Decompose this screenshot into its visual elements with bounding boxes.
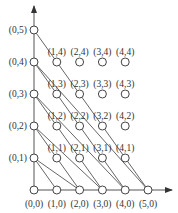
node-label: (0,0) (25, 199, 43, 210)
node-label: (3,0) (93, 199, 111, 210)
node-label: (0,5) (9, 25, 27, 36)
node-circle (144, 186, 152, 194)
node-circle (98, 90, 106, 98)
node-label: (0,3) (9, 89, 27, 100)
node-circle (53, 122, 61, 130)
node-label: (2,1) (70, 143, 88, 154)
node-circle (76, 186, 84, 194)
edge (34, 94, 102, 190)
node-circle (98, 122, 106, 130)
node-label: (3,4) (93, 47, 111, 58)
edge (34, 126, 102, 190)
node-circle (98, 58, 106, 66)
node-circle (30, 186, 38, 194)
node-label: (4,0) (116, 199, 134, 210)
node-label: (1,0) (48, 199, 66, 210)
node-label: (4,1) (116, 143, 134, 154)
edge (34, 158, 57, 190)
node-labels: (0,0)(1,0)(2,0)(3,0)(4,0)(5,0)(0,1)(1,1)… (9, 25, 157, 210)
node-label: (5,0) (139, 199, 157, 210)
node-label: (2,2) (70, 111, 88, 122)
node-circle (30, 90, 38, 98)
node-label: (1,1) (48, 143, 66, 154)
node-circle (30, 122, 38, 130)
node-label: (2,3) (70, 79, 88, 90)
node-label: (4,2) (116, 111, 134, 122)
node-circle (30, 58, 38, 66)
node-circle (121, 122, 129, 130)
node-label: (2,0) (70, 199, 88, 210)
node-circle (121, 90, 129, 98)
node-circle (121, 186, 129, 194)
node-label: (4,4) (116, 47, 134, 58)
node-label: (2,4) (70, 47, 88, 58)
node-label: (0,2) (9, 121, 27, 132)
node-circle (76, 122, 84, 130)
node-label: (3,1) (93, 143, 111, 154)
node-circle (76, 90, 84, 98)
node-circle (121, 154, 129, 162)
node-circle (30, 154, 38, 162)
node-circle (98, 154, 106, 162)
node-circle (121, 58, 129, 66)
node-circle (30, 26, 38, 34)
node-circle (53, 58, 61, 66)
node-circle (53, 90, 61, 98)
node-circle (98, 186, 106, 194)
node-label: (3,3) (93, 79, 111, 90)
node-label: (1,4) (48, 47, 66, 58)
node-label: (1,2) (48, 111, 66, 122)
node-circle (53, 186, 61, 194)
node-circle (76, 154, 84, 162)
node-circle (76, 58, 84, 66)
node-label: (4,3) (116, 79, 134, 90)
node-label: (0,4) (9, 57, 27, 68)
lattice-diagram: (0,0)(1,0)(2,0)(3,0)(4,0)(5,0)(0,1)(1,1)… (0, 0, 178, 213)
edge (34, 94, 125, 190)
node-label: (1,3) (48, 79, 66, 90)
node-label: (3,2) (93, 111, 111, 122)
node-circle (53, 154, 61, 162)
node-label: (0,1) (9, 153, 27, 164)
